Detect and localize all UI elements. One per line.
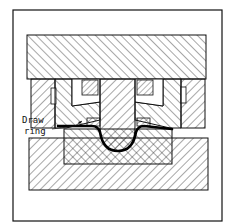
top-plate: [27, 35, 206, 79]
right-retainer-block: [137, 80, 153, 95]
right-key: [181, 87, 186, 103]
draw-ring-label-line1: Draw: [22, 115, 44, 125]
right-outer-holder: [181, 79, 205, 128]
draw-ring-label-line2: ring: [24, 126, 46, 136]
punch: [100, 79, 135, 151]
left-retainer-block: [82, 80, 98, 95]
die-section-diagram: Draw ring: [0, 0, 233, 223]
